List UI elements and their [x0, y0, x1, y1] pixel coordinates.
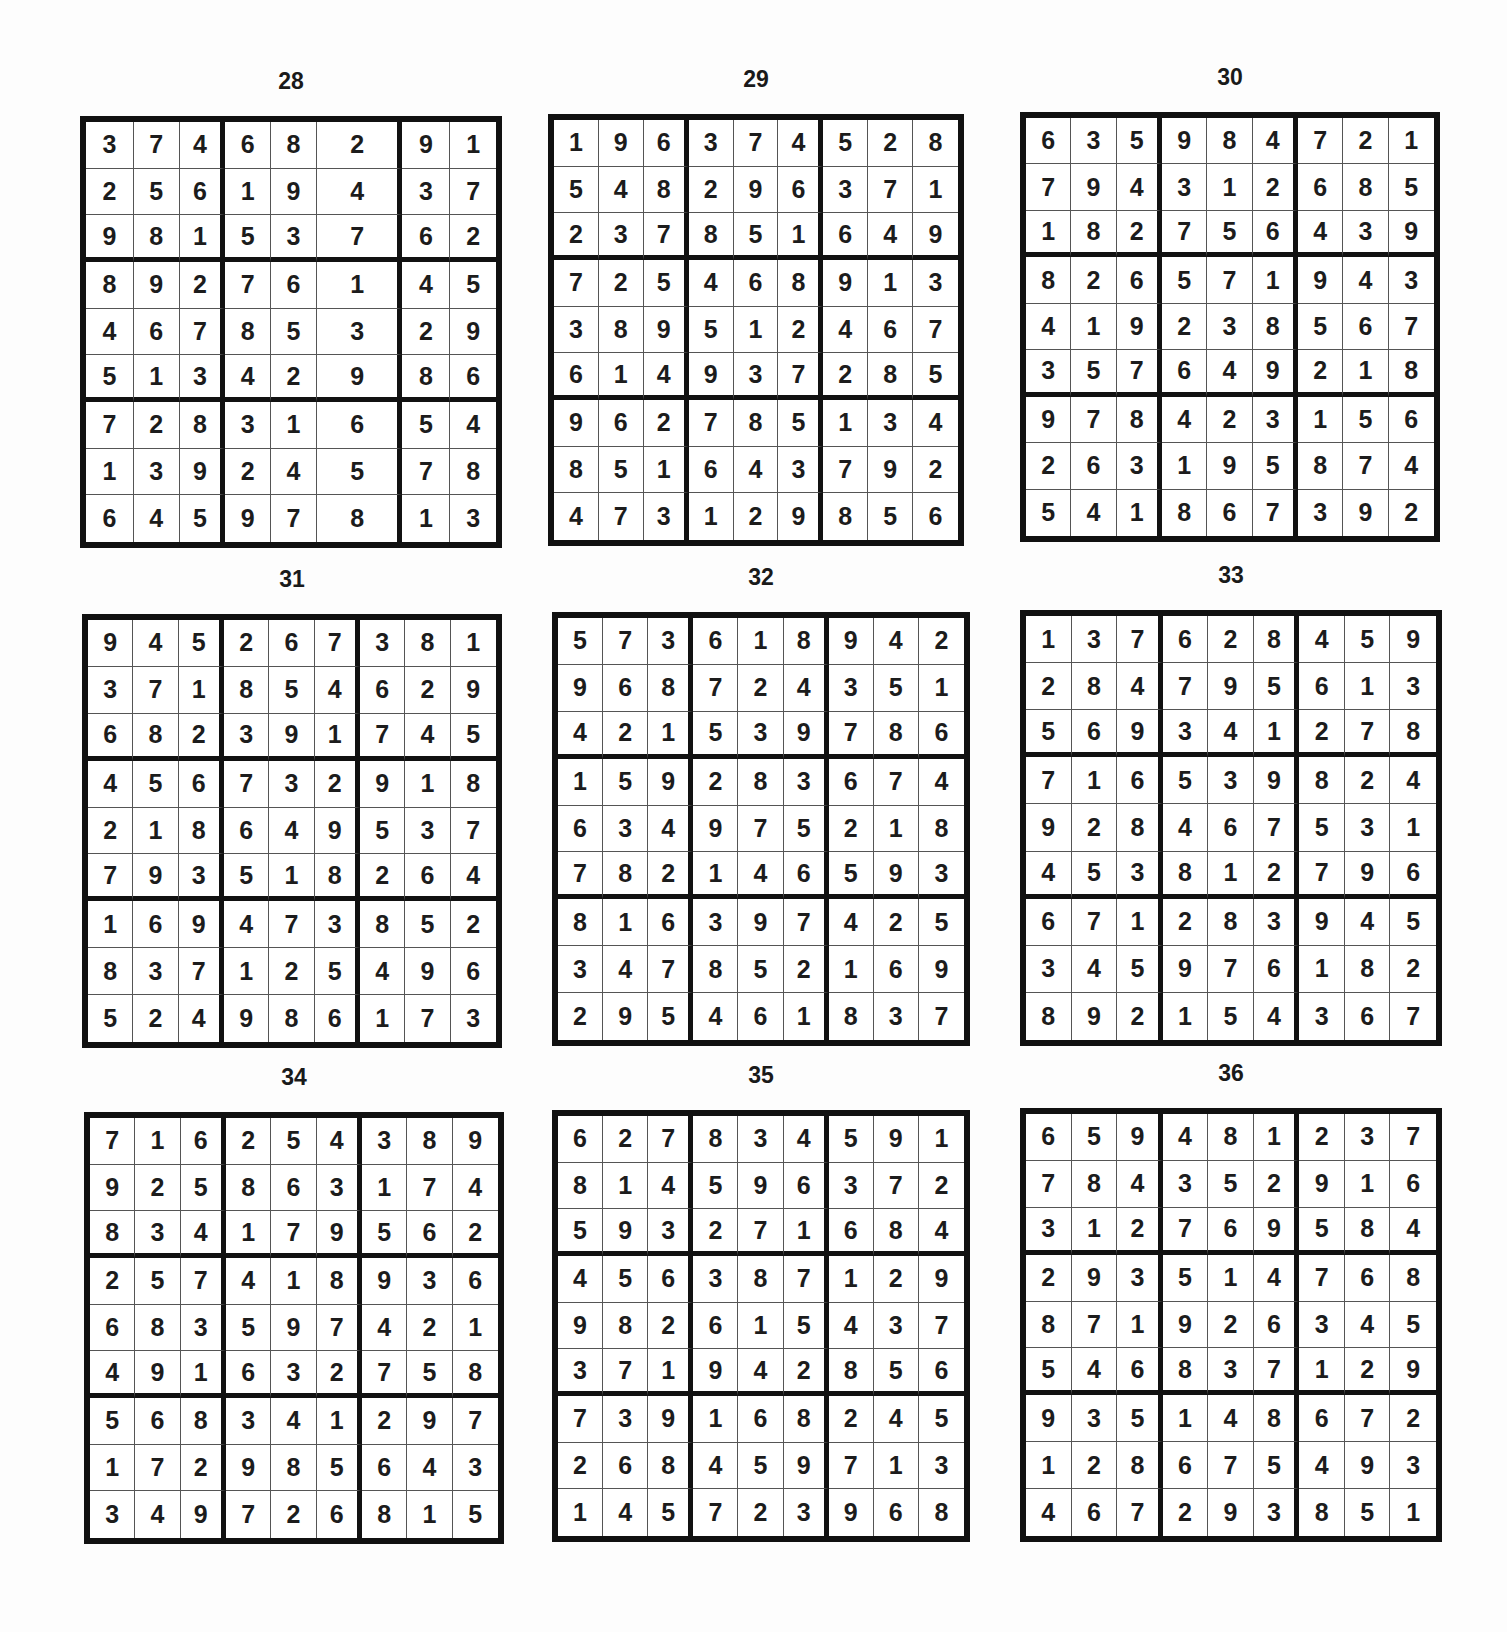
grid-cell: 1 — [829, 946, 874, 993]
grid-cell: 7 — [693, 1489, 738, 1536]
grid-cell: 1 — [224, 948, 269, 995]
grid-cell: 6 — [407, 1211, 452, 1258]
grid-cell: 5 — [1390, 899, 1436, 946]
grid-cell: 5 — [648, 993, 693, 1040]
grid-cell: 6 — [784, 852, 829, 899]
grid-cell: 4 — [784, 665, 829, 712]
grid-cell: 6 — [1072, 710, 1118, 757]
grid-cell: 8 — [1117, 397, 1162, 443]
grid-cell: 8 — [874, 712, 919, 759]
grid-cell: 4 — [407, 1445, 452, 1492]
grid-cell: 7 — [226, 1491, 271, 1538]
grid-cell: 8 — [693, 1116, 738, 1163]
grid-cell: 8 — [360, 901, 405, 948]
grid-cell: 7 — [919, 1303, 964, 1350]
grid-cell: 4 — [784, 1116, 829, 1163]
grid-cell: 4 — [1389, 443, 1434, 489]
grid-cell: 8 — [88, 948, 133, 995]
grid-cell: 3 — [181, 1305, 226, 1352]
grid-cell: 3 — [868, 400, 913, 447]
grid-cell: 8 — [913, 120, 958, 167]
grid-cell: 5 — [181, 1165, 226, 1212]
grid-cell: 7 — [1026, 757, 1072, 804]
grid-cell: 4 — [180, 122, 226, 169]
grid-cell: 9 — [360, 761, 405, 808]
grid-cell: 4 — [1117, 164, 1162, 210]
grid-cell: 6 — [179, 761, 224, 808]
grid-cell: 2 — [1208, 1302, 1254, 1349]
grid-cell: 4 — [362, 1305, 407, 1352]
grid-cell: 7 — [1389, 304, 1434, 350]
grid-cell: 1 — [1072, 1208, 1118, 1255]
grid-cell: 5 — [317, 1445, 362, 1492]
grid-cell: 5 — [693, 712, 738, 759]
grid-cell: 5 — [913, 353, 958, 400]
grid-cell: 3 — [1299, 993, 1345, 1040]
grid-cell: 3 — [134, 449, 180, 496]
grid-cell: 4 — [689, 260, 734, 307]
grid-cell: 4 — [133, 620, 178, 667]
grid-cell: 8 — [558, 899, 603, 946]
sudoku-puzzle-33: 3313762845928479561356934127871653982492… — [1020, 562, 1442, 1046]
grid-cell: 5 — [648, 1489, 693, 1536]
grid-cell: 2 — [919, 618, 964, 665]
grid-cell: 1 — [86, 449, 134, 496]
grid-cell: 8 — [317, 495, 403, 542]
grid-cell: 5 — [1163, 757, 1209, 804]
grid-cell: 4 — [648, 1163, 693, 1210]
grid-cell: 5 — [778, 400, 823, 447]
grid-cell: 9 — [558, 665, 603, 712]
grid-cell: 6 — [778, 167, 823, 214]
grid-cell: 9 — [874, 1116, 919, 1163]
grid-cell: 1 — [269, 854, 314, 901]
grid-cell: 4 — [315, 667, 360, 714]
grid-cell: 1 — [226, 1211, 271, 1258]
grid-cell: 3 — [451, 995, 496, 1042]
grid-cell: 4 — [734, 447, 779, 494]
grid-cell: 9 — [1117, 304, 1162, 350]
grid-cell: 4 — [1298, 211, 1343, 257]
grid-cell: 3 — [1072, 616, 1118, 663]
grid-cell: 4 — [1163, 804, 1209, 851]
grid-cell: 5 — [86, 355, 134, 402]
grid-cell: 5 — [829, 1116, 874, 1163]
grid-cell: 9 — [919, 1256, 964, 1303]
grid-cell: 3 — [315, 901, 360, 948]
grid-cell: 6 — [1163, 616, 1209, 663]
grid-cell: 1 — [1254, 1114, 1300, 1161]
grid-cell: 6 — [913, 493, 958, 540]
grid-cell: 3 — [599, 213, 644, 260]
grid-cell: 8 — [778, 260, 823, 307]
grid-cell: 7 — [648, 946, 693, 993]
grid-cell: 4 — [868, 213, 913, 260]
grid-cell: 9 — [134, 262, 180, 309]
grid-cell: 7 — [133, 667, 178, 714]
grid-cell: 8 — [1026, 257, 1071, 303]
grid-cell: 5 — [784, 806, 829, 853]
grid-cell: 2 — [1117, 1208, 1163, 1255]
grid-cell: 6 — [360, 667, 405, 714]
grid-cell: 5 — [1389, 164, 1434, 210]
grid-cell: 4 — [648, 806, 693, 853]
grid-cell: 7 — [1071, 397, 1116, 443]
grid-cell: 4 — [1026, 852, 1072, 899]
grid-cell: 4 — [554, 493, 599, 540]
grid-cell: 3 — [1117, 852, 1163, 899]
sudoku-grid: 5736189429687243514215397861592836746349… — [552, 612, 970, 1046]
grid-cell: 9 — [784, 1443, 829, 1490]
grid-cell: 1 — [407, 1491, 452, 1538]
grid-cell: 1 — [402, 495, 450, 542]
grid-cell: 6 — [317, 402, 403, 449]
grid-cell: 4 — [453, 1165, 498, 1212]
grid-cell: 8 — [823, 493, 868, 540]
grid-cell: 4 — [1299, 616, 1345, 663]
grid-cell: 1 — [1299, 1348, 1345, 1395]
grid-cell: 3 — [829, 1163, 874, 1210]
sudoku-puzzle-31: 3194526738137185462968239174545673291821… — [82, 566, 502, 1048]
grid-cell: 7 — [135, 1445, 180, 1492]
grid-cell: 5 — [1072, 1114, 1118, 1161]
grid-cell: 4 — [829, 1303, 874, 1350]
grid-cell: 5 — [919, 1396, 964, 1443]
sudoku-puzzle-35: 3562783459181459637259327168445638712998… — [552, 1062, 970, 1542]
grid-cell: 5 — [1071, 350, 1116, 396]
